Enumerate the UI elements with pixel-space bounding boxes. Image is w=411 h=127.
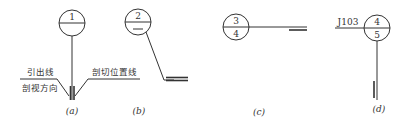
panel-d: J103 4 5 (d) — [335, 15, 390, 114]
label-cut-position-line: 剖切位置线 — [92, 67, 137, 77]
circle-c-bottom-number: 4 — [233, 29, 239, 39]
leader-line-b — [146, 32, 174, 80]
drawing-code-d: J103 — [337, 17, 359, 27]
cut-position-leader — [75, 79, 140, 96]
caption-b: (b) — [133, 106, 146, 116]
circle-c-top-number: 3 — [233, 16, 239, 26]
circle-d-bottom-number: 5 — [374, 30, 380, 40]
panel-a: 1 引出线 剖视方向 剖切位置线 (a) — [20, 10, 140, 116]
label-leader-line: 引出线 — [27, 67, 54, 77]
panel-c: 3 4 (c) — [223, 14, 307, 117]
caption-c: (c) — [253, 107, 266, 117]
label-view-direction: 剖视方向 — [22, 83, 58, 93]
circle-b-top-number: 2 — [135, 11, 141, 21]
circle-d-top-number: 4 — [374, 17, 380, 27]
circle-a-top-number: 1 — [69, 12, 75, 22]
panel-b: 2 (b) — [125, 9, 188, 116]
caption-d: (d) — [373, 104, 386, 114]
caption-a: (a) — [66, 106, 79, 116]
section-symbol-diagram: 1 引出线 剖视方向 剖切位置线 (a) 2 (b) 3 4 (c) J103 — [0, 0, 411, 127]
